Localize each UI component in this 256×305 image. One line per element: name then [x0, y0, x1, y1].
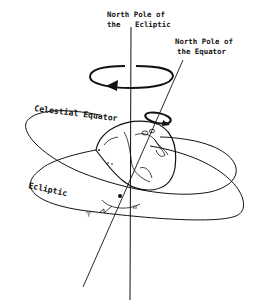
ecliptic-pole-axis — [130, 27, 131, 300]
celestial-equator-label: Celestial Equator — [34, 103, 118, 123]
ecliptic-pole-label-line1: North Pole of — [107, 10, 165, 19]
equinox-pointer — [100, 206, 112, 213]
earth-globe — [96, 121, 176, 190]
vernal-equinox-point — [118, 194, 122, 198]
ecliptic-pole-label-line2b: Ecliptic — [135, 20, 171, 29]
ecliptic-pole-label-line2: the — [107, 20, 121, 29]
precession-arrow-icon — [90, 66, 173, 91]
equator-pole-label-line2: the Equator — [177, 47, 226, 56]
equator-pole-label-line1: North Pole of — [175, 37, 233, 46]
ascending-node-symbol: ☊ — [133, 203, 137, 210]
ecliptic-label: Ecliptic — [28, 180, 69, 198]
ecliptic-plane — [30, 146, 243, 220]
vernal-equinox-symbol: ♈ — [86, 209, 92, 219]
earth-rotation-axis — [83, 60, 183, 287]
precession-diagram: North Pole of the Ecliptic North Pole of… — [0, 0, 256, 305]
rotation-arrow-icon — [144, 110, 172, 126]
